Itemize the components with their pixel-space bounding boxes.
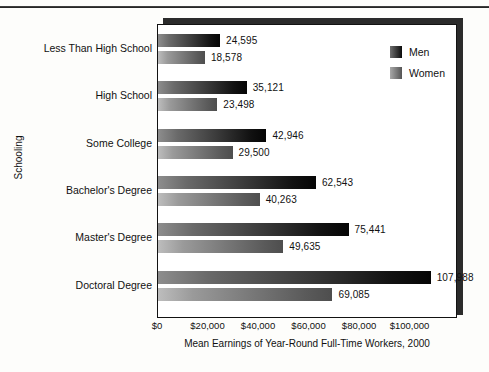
x-tick-label-1: $20,000 xyxy=(190,320,224,331)
chart-figure: Schooling Less Than High SchoolHigh Scho… xyxy=(0,0,489,372)
x-axis-title: Mean Earnings of Year-Round Full-Time Wo… xyxy=(157,338,457,349)
bar-men-4 xyxy=(158,222,349,237)
bar-women-2 xyxy=(158,145,233,160)
bar-value-label: 107,988 xyxy=(437,270,474,285)
bar-women-1 xyxy=(158,97,217,112)
bar-men-2 xyxy=(158,128,266,143)
legend-swatch-women-icon xyxy=(390,67,402,79)
category-label-0: Less Than High School xyxy=(0,42,152,54)
bar-men-3 xyxy=(158,175,316,190)
legend-item-women[interactable]: Women xyxy=(390,64,445,81)
bar-value-label: 23,498 xyxy=(223,97,254,112)
plot-panel: 24,59518,57835,12123,49842,94629,50062,5… xyxy=(157,24,457,318)
x-tick-label-0: $0 xyxy=(152,320,163,331)
x-tick-label-4: $80,000 xyxy=(342,320,376,331)
bar-women-3 xyxy=(158,192,260,207)
bar-women-5 xyxy=(158,287,332,302)
bar-men-5 xyxy=(158,270,431,285)
bar-men-1 xyxy=(158,80,247,95)
x-tick-label-3: $60,000 xyxy=(291,320,325,331)
legend-label-men: Men xyxy=(409,46,429,58)
chart-legend: Men Women xyxy=(390,43,445,85)
category-label-1: High School xyxy=(0,89,152,101)
legend-swatch-men-icon xyxy=(390,46,402,58)
category-label-4: Master's Degree xyxy=(0,231,152,243)
category-axis-labels: Less Than High SchoolHigh SchoolSome Col… xyxy=(0,24,152,318)
bar-value-label: 18,578 xyxy=(211,50,242,65)
x-tick-label-2: $40,000 xyxy=(241,320,275,331)
bar-value-label: 35,121 xyxy=(253,80,284,95)
bar-men-0 xyxy=(158,33,220,48)
bar-value-label: 62,543 xyxy=(322,175,353,190)
x-tick-label-5: $100,000 xyxy=(390,320,430,331)
bar-value-label: 69,085 xyxy=(338,287,369,302)
category-label-2: Some College xyxy=(0,137,152,149)
bar-value-label: 49,635 xyxy=(289,239,320,254)
legend-label-women: Women xyxy=(409,67,445,79)
page-top-rule xyxy=(0,6,489,8)
x-axis-tick-labels: $0$20,000$40,000$60,000$80,000$100,000 xyxy=(157,320,457,334)
bar-value-label: 24,595 xyxy=(226,33,257,48)
category-label-3: Bachelor's Degree xyxy=(0,184,152,196)
bar-value-label: 75,441 xyxy=(355,222,386,237)
category-label-5: Doctoral Degree xyxy=(0,279,152,291)
bar-value-label: 40,263 xyxy=(266,192,297,207)
bar-women-0 xyxy=(158,50,205,65)
legend-item-men[interactable]: Men xyxy=(390,43,445,60)
bar-value-label: 42,946 xyxy=(272,128,303,143)
bar-value-label: 29,500 xyxy=(239,145,270,160)
bar-women-4 xyxy=(158,239,283,254)
